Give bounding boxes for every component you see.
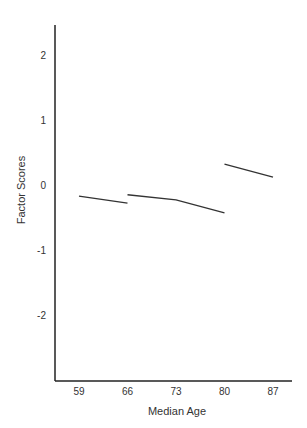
line-chart: 210-1-2 5966738087 Median Age Factor Sco… <box>0 0 307 428</box>
x-tick-label: 66 <box>122 386 134 397</box>
x-tick-labels: 5966738087 <box>73 386 279 397</box>
x-tick-label: 87 <box>267 386 279 397</box>
y-tick-label: -1 <box>37 245 46 256</box>
y-tick-label: 0 <box>40 180 46 191</box>
line-segment-1 <box>79 196 128 203</box>
y-tick-label: -2 <box>37 310 46 321</box>
y-tick-label: 1 <box>40 115 46 126</box>
x-tick-label: 59 <box>73 386 85 397</box>
data-series <box>79 164 273 213</box>
y-axis-label: Factor Scores <box>15 155 27 224</box>
x-tick-label: 73 <box>170 386 182 397</box>
x-axis-label: Median Age <box>148 405 206 417</box>
y-tick-labels: 210-1-2 <box>37 50 46 321</box>
x-tick-label: 80 <box>219 386 231 397</box>
y-tick-label: 2 <box>40 50 46 61</box>
line-segment-2 <box>128 195 225 213</box>
line-segment-3 <box>225 164 274 177</box>
